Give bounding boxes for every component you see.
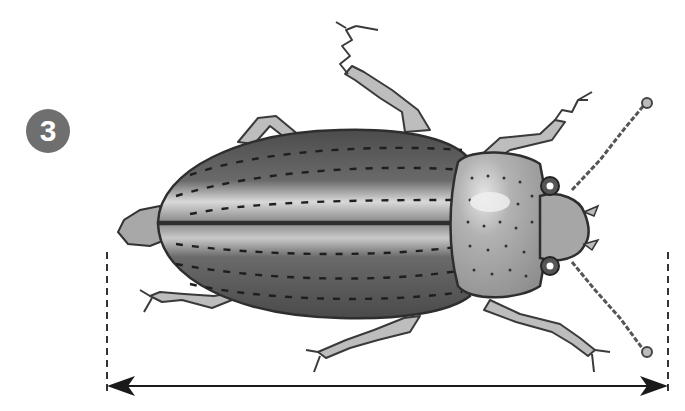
left-elytron: [158, 130, 470, 222]
pronotum: [451, 152, 547, 297]
beetle-illustration: [0, 0, 685, 411]
head: [540, 194, 589, 260]
length-arrow: [107, 376, 668, 396]
beetle-figure: 3: [0, 0, 685, 411]
